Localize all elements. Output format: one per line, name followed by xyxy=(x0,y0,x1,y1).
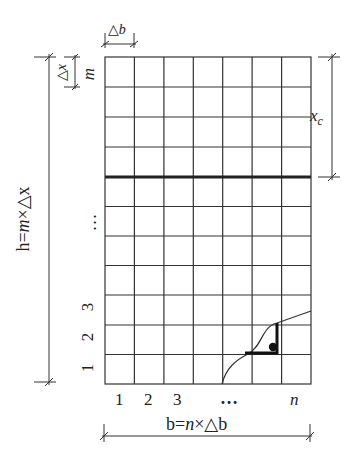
col-n-label: n xyxy=(290,390,299,410)
height-dimension xyxy=(34,53,56,386)
row-ellipsis: … xyxy=(80,214,101,232)
row-number-2: 2 xyxy=(78,333,98,342)
col-number-2: 2 xyxy=(144,390,153,410)
height-formula-prefix: h= xyxy=(13,232,33,251)
col-number-1: 1 xyxy=(115,390,124,410)
width-formula: b=n×△b xyxy=(166,413,227,435)
grid xyxy=(105,57,311,384)
row-number-3: 3 xyxy=(78,303,98,312)
delta-b-text: △b xyxy=(108,22,126,37)
row-number-1: 1 xyxy=(78,364,98,373)
delta-x-label: △x xyxy=(53,64,70,81)
boundary-curve xyxy=(222,311,311,384)
delta-x-text: △x xyxy=(54,64,69,81)
height-formula: h=m×△x xyxy=(12,186,34,251)
width-formula-n: n xyxy=(185,414,194,434)
xc-subscript: c xyxy=(318,114,323,128)
col-ellipsis: … xyxy=(220,388,238,409)
xc-label: xc xyxy=(310,106,323,129)
width-formula-prefix: b= xyxy=(166,414,185,434)
point-marker xyxy=(269,343,277,351)
m-top-label: m xyxy=(79,68,99,80)
height-formula-m: m xyxy=(13,219,33,232)
height-formula-suffix: ×△x xyxy=(13,186,33,219)
delta-b-label: △b xyxy=(108,21,126,38)
col-number-3: 3 xyxy=(173,390,182,410)
width-formula-suffix: ×△b xyxy=(194,414,227,434)
xc-text: x xyxy=(310,106,318,125)
